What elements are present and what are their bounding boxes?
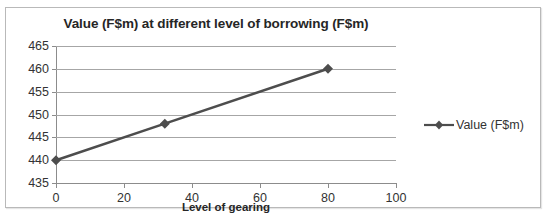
x-tick-mark [124,183,125,188]
y-tick-label: 465 [28,39,49,53]
x-tick-mark [260,183,261,188]
y-tick-label: 435 [28,176,49,190]
data-point-marker [160,119,170,129]
y-tick-label: 460 [28,62,49,76]
y-tick-label: 450 [28,108,49,122]
y-tick-label: 445 [28,130,49,144]
x-tick-mark [192,183,193,188]
legend-label: Value (F$m) [456,118,524,132]
y-tick-label: 440 [28,153,49,167]
series-plot [56,46,396,183]
data-point-marker [323,64,333,74]
x-tick-mark [56,183,57,188]
series-line [56,69,328,160]
x-tick-mark [396,183,397,188]
y-tick-label: 455 [28,85,49,99]
legend-marker-icon [424,119,454,131]
chart-container: Value (F$m) at different level of borrow… [5,7,541,208]
data-point-marker [51,155,61,165]
x-tick-mark [328,183,329,188]
plot-area: 435440445450455460465 020406080100 [56,46,396,183]
x-axis-title: Level of gearing [56,201,396,213]
chart-title: Value (F$m) at different level of borrow… [6,16,426,31]
chart-legend: Value (F$m) [424,118,524,132]
x-axis-line [56,183,396,184]
